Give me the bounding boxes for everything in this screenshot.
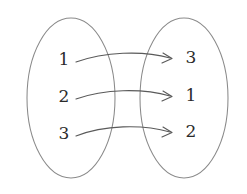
arrow-line-1-to-3 xyxy=(76,53,170,62)
domain-set-ellipse xyxy=(27,18,115,178)
permutation-mapping-figure: 1 2 3 3 1 2 xyxy=(0,0,247,194)
domain-element-1: 1 xyxy=(59,49,70,69)
codomain-set-ellipse xyxy=(140,18,228,178)
codomain-element-1: 3 xyxy=(186,47,197,67)
arrow-line-3-to-2 xyxy=(76,127,170,136)
arrow-line-2-to-1 xyxy=(76,91,170,99)
arrow-head-2-to-1 xyxy=(162,91,172,101)
arrow-head-1-to-3 xyxy=(162,53,172,63)
arrow-head-3-to-2 xyxy=(162,127,172,137)
domain-element-3: 3 xyxy=(59,123,70,143)
codomain-element-2: 1 xyxy=(186,85,197,105)
domain-element-2: 2 xyxy=(59,86,70,106)
mapping-diagram-canvas: 1 2 3 3 1 2 xyxy=(0,0,247,194)
codomain-element-3: 2 xyxy=(186,121,197,141)
